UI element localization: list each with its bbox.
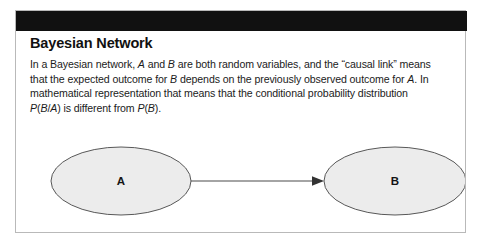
body-line-3: mathematical representation that means t… xyxy=(30,86,454,101)
edge-a-to-b-arrowhead-icon xyxy=(312,176,324,186)
body-text-segment: ) is different from xyxy=(57,102,137,114)
variable-b: B xyxy=(168,58,175,70)
probability-symbol: P xyxy=(30,102,37,114)
body-line-2: that the expected outcome for B depends … xyxy=(30,72,454,87)
variable-a: A xyxy=(138,58,145,70)
title-area: Bayesian Network xyxy=(30,35,450,52)
header-bar xyxy=(16,11,467,31)
body-line-1: In a Bayesian network, A and B are both … xyxy=(30,57,454,72)
node-b-label: B xyxy=(391,175,399,187)
body-paragraph: In a Bayesian network, A and B are both … xyxy=(30,57,454,115)
page-title: Bayesian Network xyxy=(30,35,450,52)
body-text-segment: are both random variables, and the “caus… xyxy=(175,58,431,70)
node-a-label: A xyxy=(117,175,125,187)
body-text-segment: and xyxy=(145,58,168,70)
variable-b: B xyxy=(148,102,155,114)
figure-frame: Bayesian Network In a Bayesian network, … xyxy=(15,10,466,233)
body-text-segment: depends on the previously observed outco… xyxy=(177,73,407,85)
figure-root: Bayesian Network In a Bayesian network, … xyxy=(0,0,481,242)
body-text-segment: . In xyxy=(414,73,428,85)
body-text-segment: that the expected outcome for xyxy=(30,73,170,85)
bayesian-network-graph: A B xyxy=(16,129,465,233)
body-line-4: P(B/A) is different from P(B). xyxy=(30,101,454,116)
body-text-segment: In a Bayesian network, xyxy=(30,58,138,70)
body-text-segment: ). xyxy=(155,102,161,114)
